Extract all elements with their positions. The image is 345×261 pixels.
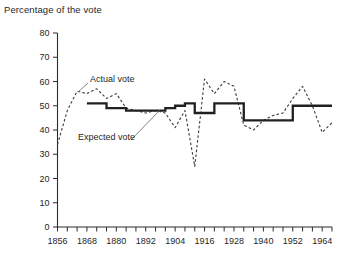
x-tick-label-1964: 1964	[312, 236, 332, 246]
y-axis: 01020304050607080	[39, 28, 57, 232]
x-tick-label-1916: 1916	[195, 236, 215, 246]
x-tick-label-1940: 1940	[253, 236, 273, 246]
y-tick-label-50: 50	[39, 101, 49, 111]
x-tick-label-1952: 1952	[283, 236, 303, 246]
x-axis-ticks	[58, 227, 333, 232]
y-tick-label-20: 20	[39, 174, 49, 184]
y-axis-ticks	[53, 33, 58, 227]
x-tick-label-1856: 1856	[47, 236, 67, 246]
x-axis-tick-labels: 1856186818801892190419161928194019521964	[47, 236, 332, 246]
x-tick-label-1904: 1904	[165, 236, 185, 246]
expected-vote-leader-line	[131, 110, 160, 140]
actual-vote-leader-line	[78, 83, 88, 92]
chart-container: Percentage of the vote 01020304050607080…	[0, 0, 345, 261]
actual-vote-annotation-label: Actual vote	[90, 74, 135, 84]
series-actual-vote	[58, 79, 333, 166]
x-axis: 1856186818801892190419161928194019521964	[47, 227, 332, 246]
y-axis-tick-labels: 01020304050607080	[39, 28, 49, 232]
series-expected-vote	[87, 103, 332, 120]
x-tick-label-1868: 1868	[77, 236, 97, 246]
y-tick-label-40: 40	[39, 125, 49, 135]
x-tick-label-1892: 1892	[136, 236, 156, 246]
x-tick-label-1880: 1880	[106, 236, 126, 246]
chart-plot-area: 01020304050607080 1856186818801892190419…	[0, 0, 345, 261]
x-tick-label-1928: 1928	[224, 236, 244, 246]
y-tick-label-0: 0	[44, 222, 49, 232]
y-tick-label-60: 60	[39, 77, 49, 87]
expected-vote-annotation-label: Expected vote	[78, 132, 135, 142]
y-tick-label-80: 80	[39, 28, 49, 38]
y-tick-label-10: 10	[39, 198, 49, 208]
y-tick-label-70: 70	[39, 52, 49, 62]
y-tick-label-30: 30	[39, 149, 49, 159]
